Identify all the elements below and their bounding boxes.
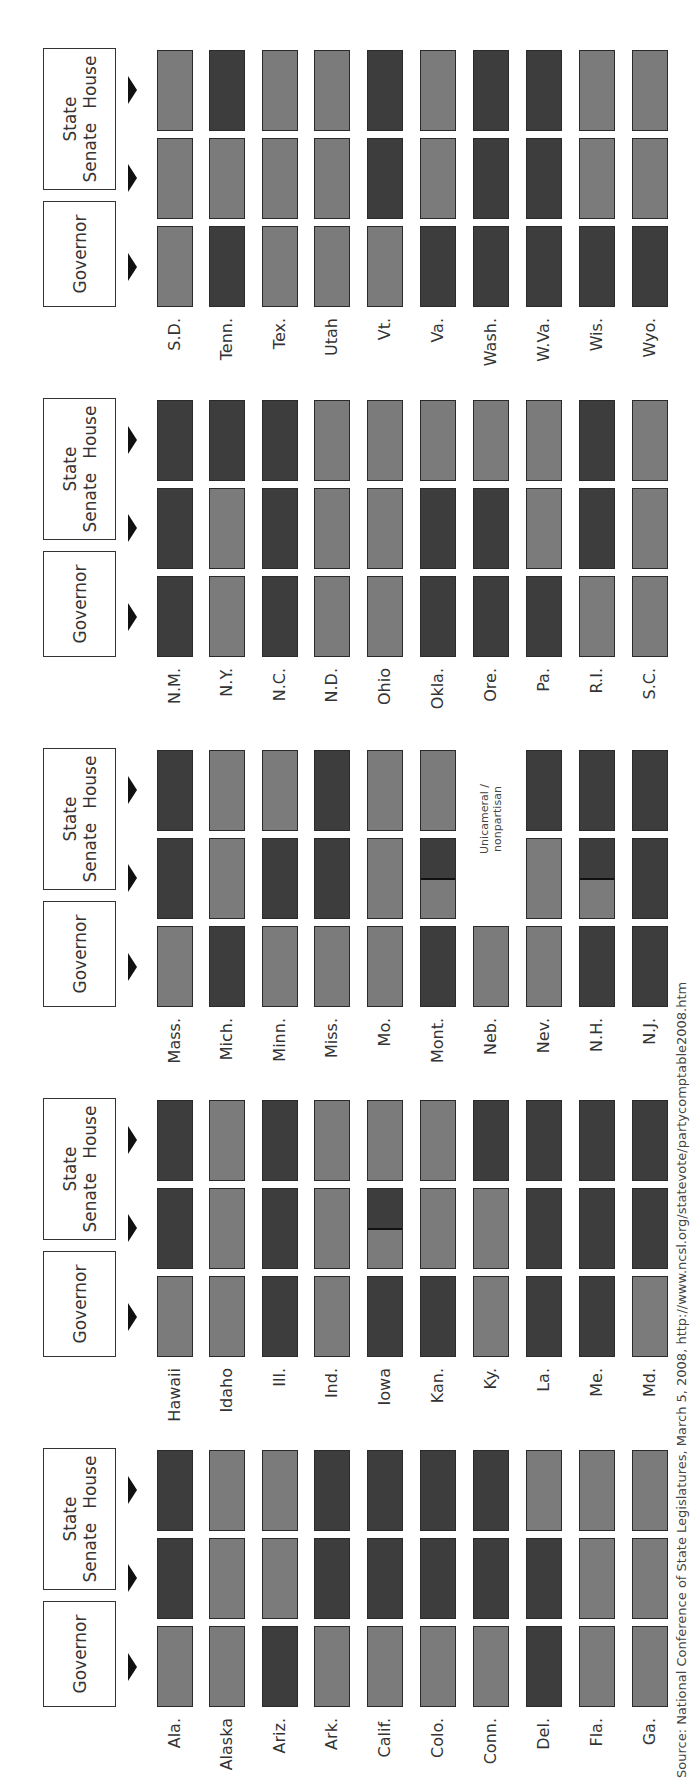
- state-name-label: Me.: [587, 1368, 607, 1428]
- senate-bar: [579, 138, 615, 219]
- governor-bar: [579, 926, 615, 1007]
- source-note: Source: National Conference of State Leg…: [673, 678, 691, 1778]
- house-bar: [632, 400, 668, 481]
- governor-arrow-icon: [128, 1653, 137, 1681]
- state-label: State: [60, 1106, 80, 1233]
- governor-header-box: Governor: [43, 551, 116, 657]
- house-bar: [157, 400, 193, 481]
- house-bar: [420, 50, 456, 131]
- governor-bar: [473, 1626, 509, 1707]
- house-arrow-icon: [128, 76, 137, 104]
- senate-bar: [526, 838, 562, 919]
- governor-arrow-icon: [128, 953, 137, 981]
- house-bar: [579, 1450, 615, 1531]
- state-name-label: Va.: [428, 318, 448, 378]
- state-label: State: [60, 56, 80, 183]
- house-bar: [420, 1100, 456, 1181]
- house-bar: [579, 400, 615, 481]
- house-label: House: [80, 1456, 100, 1509]
- senate-bar: [367, 838, 403, 919]
- house-bar: [526, 1450, 562, 1531]
- state-name-label: Wash.: [481, 318, 501, 378]
- senate-bar: [262, 1538, 298, 1619]
- senate-bar: [473, 1188, 509, 1269]
- legislature-header: StateSenateHouse: [60, 1106, 100, 1233]
- senate-arrow-icon: [128, 514, 137, 542]
- governor-bar: [314, 926, 350, 1007]
- governor-bar: [473, 926, 509, 1007]
- senate-label: Senate: [80, 823, 100, 883]
- house-bar: [314, 750, 350, 831]
- legislature-header: StateSenateHouse: [60, 56, 100, 183]
- governor-bar: [420, 1626, 456, 1707]
- senate-bar: [314, 838, 350, 919]
- state-name-label: Nev.: [534, 1018, 554, 1078]
- house-bar: [209, 400, 245, 481]
- senate-bar: [473, 488, 509, 569]
- house-bar: [209, 50, 245, 131]
- governor-bar: [367, 226, 403, 307]
- senate-bar: [157, 488, 193, 569]
- house-bar: [262, 750, 298, 831]
- governor-bar: [473, 1276, 509, 1357]
- senate-bar: [209, 1538, 245, 1619]
- house-bar: [473, 50, 509, 131]
- governor-bar: [632, 226, 668, 307]
- state-name-label: Ariz.: [270, 1718, 290, 1778]
- house-bar: [367, 1100, 403, 1181]
- governor-bar: [420, 226, 456, 307]
- house-bar: [367, 50, 403, 131]
- house-bar: [579, 50, 615, 131]
- governor-bar: [579, 1626, 615, 1707]
- governor-bar: [473, 576, 509, 657]
- governor-arrow-icon: [128, 603, 137, 631]
- house-bar: [157, 750, 193, 831]
- house-bar: [420, 1450, 456, 1531]
- house-bar: [367, 750, 403, 831]
- governor-bar: [157, 1626, 193, 1707]
- state-name-label: N.D.: [322, 668, 342, 728]
- state-name-label: Calif.: [375, 1718, 395, 1778]
- state-name-label: Utah: [322, 318, 342, 378]
- state-name-label: W.Va.: [534, 318, 554, 378]
- senate-bar: [526, 1538, 562, 1619]
- state-name-label: N.M.: [165, 668, 185, 728]
- state-label: State: [60, 1456, 80, 1583]
- senate-bar: [157, 1538, 193, 1619]
- senate-bar: [314, 488, 350, 569]
- state-name-label: Del.: [534, 1718, 554, 1778]
- legislature-header: StateSenateHouse: [60, 756, 100, 883]
- senate-bar: [632, 1188, 668, 1269]
- state-name-label: Idaho: [217, 1368, 237, 1428]
- state-name-label: N.J.: [640, 1018, 660, 1078]
- senate-arrow-icon: [128, 164, 137, 192]
- state-name-label: N.Y.: [217, 668, 237, 728]
- house-bar: [314, 400, 350, 481]
- governor-header: Governor: [70, 1265, 90, 1344]
- house-arrow-icon: [128, 1476, 137, 1504]
- house-bar: [632, 50, 668, 131]
- senate-bar: [579, 1538, 615, 1619]
- senate-bar: [314, 1538, 350, 1619]
- state-name-label: Ala.: [165, 1718, 185, 1778]
- senate-label: Senate: [80, 1523, 100, 1583]
- senate-label: Senate: [80, 473, 100, 533]
- state-name-label: Ohio: [375, 668, 395, 728]
- state-name-label: Pa.: [534, 668, 554, 728]
- house-bar: [420, 400, 456, 481]
- house-bar: [632, 1100, 668, 1181]
- legislature-header-box: StateSenateHouse: [43, 398, 116, 540]
- governor-header: Governor: [70, 915, 90, 994]
- house-bar: [526, 50, 562, 131]
- state-name-label: Md.: [640, 1368, 660, 1428]
- senate-bar: [632, 138, 668, 219]
- state-name-label: Mo.: [375, 1018, 395, 1078]
- state-name-label: Mich.: [217, 1018, 237, 1078]
- governor-bar: [262, 226, 298, 307]
- senate-bar: [367, 1188, 403, 1269]
- senate-bar: [262, 838, 298, 919]
- governor-bar: [526, 576, 562, 657]
- state-name-label: R.I.: [587, 668, 607, 728]
- house-bar: [262, 1450, 298, 1531]
- house-bar: [157, 50, 193, 131]
